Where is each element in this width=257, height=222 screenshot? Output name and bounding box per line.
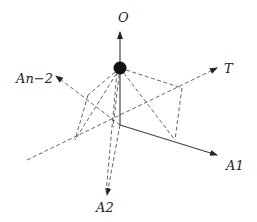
edge-apex-t-side [120, 68, 182, 88]
label-a1: A1 [225, 158, 244, 173]
edge-apex-a2 [106, 72, 117, 193]
pyramid-edges [75, 68, 182, 140]
label-t: T [224, 61, 234, 76]
axis-an-2 [56, 76, 120, 125]
pyramid-axes-diagram: O A1 A2 An−2 T [0, 0, 257, 222]
edge-apex-left-base [75, 68, 120, 140]
apex-point [114, 62, 127, 75]
edge-apex-a1-side [120, 68, 175, 140]
edge-apex-origin [113, 68, 120, 127]
label-an-2: An−2 [15, 71, 53, 86]
edge-base-right [175, 88, 182, 140]
label-o: O [118, 10, 129, 25]
axis-a1 [120, 125, 217, 155]
label-a2: A2 [95, 200, 114, 215]
